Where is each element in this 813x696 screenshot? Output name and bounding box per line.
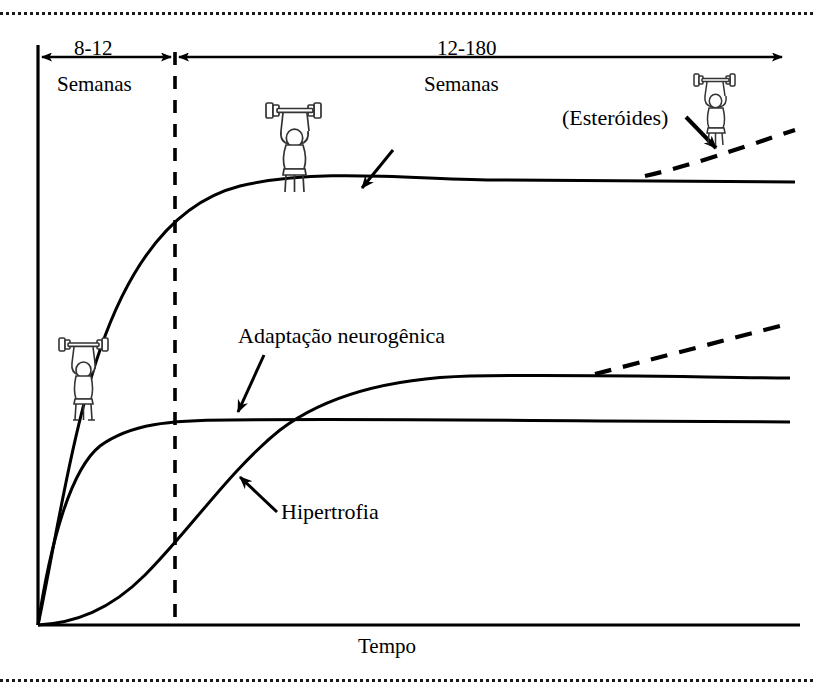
callout-arrow-total-strength	[362, 150, 393, 188]
phase1-range-label: 8-12	[74, 38, 113, 59]
curve-hypertrophy	[38, 375, 790, 625]
phase2-range-label: 12-180	[437, 38, 497, 59]
callout-arrow-hypertrophy	[240, 477, 277, 512]
curve-hypertrophy-steroids	[595, 326, 780, 374]
weightlifter-icon	[54, 330, 118, 426]
callout-arrow-neurogenic	[238, 355, 264, 412]
figure-container: 8-12 Semanas 12-180 Semanas (Esteróides)…	[0, 0, 813, 696]
hypertrophy-annotation-label: Hipertrofia	[281, 501, 379, 523]
weightlifter-icon	[262, 96, 332, 196]
steroids-annotation-label: (Esteróides)	[562, 107, 668, 129]
curve-total-strength	[38, 176, 795, 625]
x-axis-label: Tempo	[358, 636, 416, 657]
phase2-unit-label: Semanas	[424, 74, 499, 95]
curve-neurogenic	[38, 420, 790, 625]
neurogenic-annotation-label: Adaptação neurogênica	[238, 325, 445, 347]
phase1-unit-label: Semanas	[57, 74, 132, 95]
weightlifter-icon	[691, 68, 743, 148]
